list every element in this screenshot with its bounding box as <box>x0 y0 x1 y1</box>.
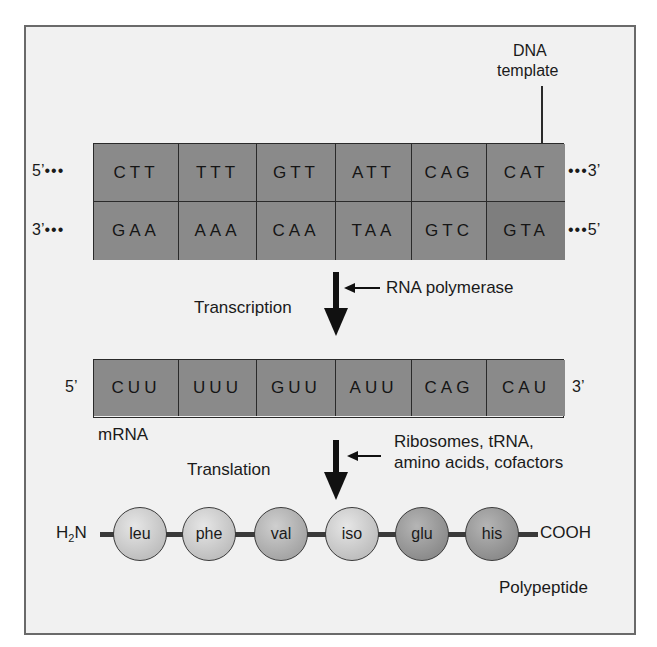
transcription-label: Transcription <box>194 298 292 318</box>
mrna-codon: UUU <box>179 360 257 416</box>
mrna-codon: AUU <box>336 360 412 416</box>
dna-bottom-codon: AAA <box>179 202 257 260</box>
dna-bottom-right-end: •••5’ <box>568 221 600 239</box>
rna-polymerase-pointer-icon <box>344 280 380 296</box>
dna-bottom-codon: CAA <box>257 202 336 260</box>
dna-template-label-line1: DNA <box>513 42 547 60</box>
mrna-codon: CAG <box>412 360 487 416</box>
mrna-strand: CUU UUU GUU AUU CAG CAU <box>93 359 564 418</box>
amino-acid-phe: phe <box>182 507 236 561</box>
dna-double-strand: CTT TTT GTT ATT CAG CAT GAA AAA CAA TAA … <box>93 143 564 260</box>
dna-top-codon: GTT <box>257 144 336 202</box>
dna-bottom-codon: GAA <box>94 202 179 260</box>
dna-bottom-left-end: 3’••• <box>32 221 64 239</box>
mrna-codon: GUU <box>257 360 336 416</box>
mrna-5-prime-end: 5’ <box>65 378 77 396</box>
c-terminal-bond <box>518 532 538 537</box>
polypeptide-label: Polypeptide <box>499 578 588 598</box>
dna-top-codon: ATT <box>336 144 412 202</box>
mrna-codon: CAU <box>487 360 565 416</box>
translation-label: Translation <box>187 460 270 480</box>
dna-top-codon: TTT <box>179 144 257 202</box>
amino-acid-glu: glu <box>395 507 449 561</box>
amino-acid-iso: iso <box>325 507 379 561</box>
dna-top-codon: CTT <box>94 144 179 202</box>
amino-acid-his: his <box>465 507 519 561</box>
dna-top-left-end: 5’••• <box>32 162 64 180</box>
translation-factors-line1: Ribosomes, tRNA, <box>394 432 534 452</box>
dna-template-pointer-line <box>541 86 543 143</box>
translation-factors-pointer-icon <box>347 448 381 464</box>
n-terminus-label: H2N <box>56 523 87 544</box>
translation-factors-line2: amino acids, cofactors <box>394 453 563 473</box>
dna-bottom-codon: GTC <box>412 202 487 260</box>
dna-top-codon: CAG <box>412 144 487 202</box>
amino-acid-val: val <box>254 507 308 561</box>
dna-top-right-end: •••3’ <box>568 162 600 180</box>
c-terminus-label: COOH <box>540 523 591 543</box>
dna-template-label-line2: template <box>497 62 558 80</box>
amino-acid-leu: leu <box>113 507 167 561</box>
rna-polymerase-label: RNA polymerase <box>386 278 514 298</box>
dna-top-codon: CAT <box>487 144 565 202</box>
dna-bottom-codon: GTA <box>487 202 565 260</box>
dna-bottom-codon: TAA <box>336 202 412 260</box>
mrna-3-prime-end: 3’ <box>572 378 584 396</box>
mrna-codon: CUU <box>94 360 179 416</box>
mrna-label: mRNA <box>98 425 148 445</box>
